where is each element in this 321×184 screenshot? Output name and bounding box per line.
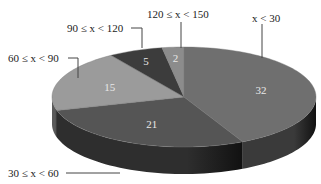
value-label-2: 15 bbox=[104, 81, 116, 93]
category-label-4: 120 ≤ x < 150 bbox=[147, 8, 209, 20]
category-label-3: 90 ≤ x < 120 bbox=[67, 22, 124, 34]
value-label-1: 21 bbox=[146, 118, 157, 130]
leader-line-3 bbox=[131, 28, 142, 48]
value-label-4: 2 bbox=[173, 52, 179, 64]
pie-chart: 32211552 x < 30 30 ≤ x < 60 60 ≤ x < 90 … bbox=[0, 0, 321, 184]
value-label-0: 32 bbox=[256, 84, 267, 96]
pie-slices bbox=[52, 47, 316, 147]
category-label-1: 30 ≤ x < 60 bbox=[8, 167, 59, 179]
value-label-3: 5 bbox=[143, 55, 149, 67]
category-label-2: 60 ≤ x < 90 bbox=[8, 52, 59, 64]
category-label-0: x < 30 bbox=[252, 12, 281, 24]
